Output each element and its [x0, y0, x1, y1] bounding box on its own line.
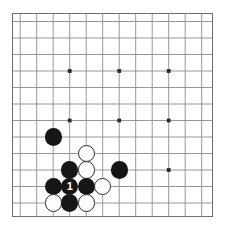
board-grid [12, 13, 213, 217]
stone-white[interactable] [78, 194, 95, 211]
stone-black[interactable]: 1 [61, 178, 78, 195]
stone-black[interactable] [61, 194, 78, 211]
star-point [167, 119, 171, 123]
stone-move-number: 1 [61, 178, 78, 195]
star-point [117, 69, 121, 73]
star-point [68, 69, 72, 73]
go-board[interactable]: 1 [12, 13, 213, 217]
go-diagram-root: 1 [0, 0, 225, 229]
stone-black[interactable] [111, 161, 128, 178]
star-point [167, 168, 171, 172]
stone-black[interactable] [61, 161, 78, 178]
star-point [117, 119, 121, 123]
star-point [68, 119, 72, 123]
stone-black[interactable] [78, 178, 95, 195]
stone-black[interactable] [45, 128, 62, 145]
stone-white[interactable] [78, 161, 95, 178]
stone-white[interactable] [45, 194, 62, 211]
star-point [167, 69, 171, 73]
stone-white[interactable] [78, 145, 95, 162]
stone-black[interactable] [45, 178, 62, 195]
